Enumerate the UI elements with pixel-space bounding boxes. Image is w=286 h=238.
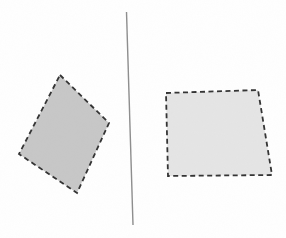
scan-grain-overlay bbox=[0, 0, 286, 238]
figure-canvas bbox=[0, 0, 286, 238]
geometry-figure bbox=[0, 0, 286, 238]
